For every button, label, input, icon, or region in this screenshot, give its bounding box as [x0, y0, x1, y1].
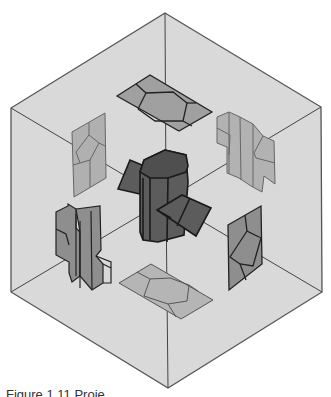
glass-box-diagram: [0, 0, 331, 397]
figure-caption: Figure 1.11 Proje: [6, 388, 105, 397]
